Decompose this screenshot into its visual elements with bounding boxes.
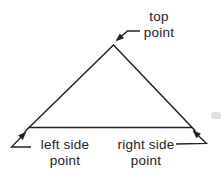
right-side-point-label-line2: point	[115, 153, 177, 169]
left-side-point-label-line2: point	[35, 153, 95, 169]
left-side-point-label-line1: left side	[35, 137, 95, 153]
left-side-point-leader-arrow	[12, 133, 32, 148]
right-side-point-label-line1: right side	[115, 137, 177, 153]
diagram-canvas	[0, 0, 221, 183]
left-side-point-label: left side point	[35, 137, 95, 168]
top-point-label: top point	[134, 9, 184, 40]
triangle-outline	[25, 45, 195, 132]
triangle-diagram: top point left side point right side poi…	[0, 0, 221, 183]
top-point-label-line2: point	[134, 25, 184, 41]
triangle-left-side	[25, 45, 114, 132]
triangle-right-side	[114, 45, 196, 131]
right-side-point-label: right side point	[115, 137, 177, 168]
top-point-label-line1: top	[134, 9, 184, 25]
right-side-point-leader-arrow	[176, 131, 207, 144]
scan-artifact	[211, 112, 221, 119]
